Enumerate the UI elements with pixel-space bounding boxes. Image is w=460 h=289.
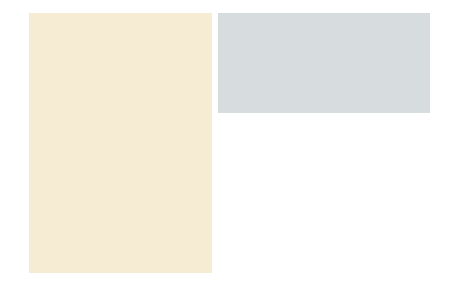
neural-circuit-diagram: [0, 0, 460, 289]
